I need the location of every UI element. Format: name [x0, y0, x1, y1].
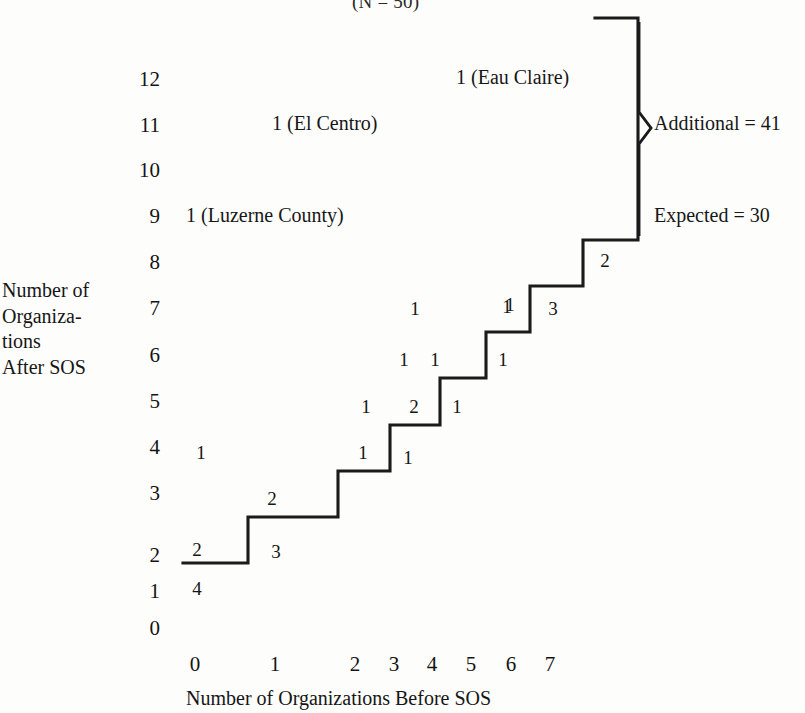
- step-label-above-1: 2: [261, 488, 283, 510]
- x-tick-0: 0: [182, 652, 208, 677]
- step-label-below-0: 4: [186, 578, 208, 600]
- annotation-additional: Additional = 41: [654, 112, 781, 135]
- x-tick-4: 4: [419, 652, 445, 677]
- step-label-above-2: 1: [352, 442, 374, 464]
- y-tick-8: 8: [124, 250, 160, 275]
- step-label-mid-5: 1: [499, 294, 521, 316]
- y-tick-4: 4: [124, 435, 160, 460]
- x-tick-7: 7: [537, 652, 563, 677]
- step-label-below-4: 1: [492, 349, 514, 371]
- y-axis-title-line-1: Number of: [2, 278, 89, 304]
- y-tick-6: 6: [124, 343, 160, 368]
- y-tick-12: 12: [124, 67, 160, 92]
- y-tick-2: 2: [124, 543, 160, 568]
- staircase-step-line: [183, 18, 638, 563]
- annotation-eau-claire: 1 (Eau Claire): [456, 66, 569, 89]
- step-label-above-0: 2: [186, 539, 208, 561]
- annotation-expected: Expected = 30: [654, 204, 770, 227]
- step-label-below-1: 3: [265, 541, 287, 563]
- figure-title: (N = 50): [352, 0, 419, 13]
- step-label-above-3: 1: [355, 396, 377, 418]
- step-label-below-6: 1: [190, 442, 212, 464]
- step-label-above-7: 2: [594, 250, 616, 272]
- annotation-el-centro: 1 (El Centro): [272, 112, 378, 135]
- y-tick-10: 10: [124, 158, 160, 183]
- y-axis-title-line-3: tions: [2, 329, 89, 355]
- y-axis-title-line-4: After SOS: [2, 355, 89, 381]
- y-tick-0: 0: [124, 616, 160, 641]
- x-tick-6: 6: [498, 652, 524, 677]
- y-axis-title: Number of Organiza- tions After SOS: [2, 278, 89, 380]
- step-label-mid-4: 1: [424, 349, 446, 371]
- y-tick-11: 11: [124, 113, 160, 138]
- y-axis-title-line-2: Organiza-: [2, 304, 89, 330]
- y-tick-1: 1: [124, 579, 160, 604]
- x-tick-5: 5: [458, 652, 484, 677]
- annotation-luzerne-county: 1 (Luzerne County): [186, 204, 344, 227]
- y-tick-5: 5: [124, 389, 160, 414]
- step-label-below-3: 1: [446, 396, 468, 418]
- step-label-above-5: 1: [404, 298, 426, 320]
- figure-root: (N = 50) 12 11 10 9 8 7 6 5 4 3 2 1 0 Nu…: [0, 0, 805, 713]
- summary-brace: [639, 22, 651, 236]
- y-tick-3: 3: [124, 481, 160, 506]
- y-tick-7: 7: [124, 296, 160, 321]
- x-axis-title: Number of Organizations Before SOS: [186, 686, 491, 711]
- step-label-above-4: 1: [393, 349, 415, 371]
- y-tick-9: 9: [124, 204, 160, 229]
- x-tick-1: 1: [262, 652, 288, 677]
- x-tick-2: 2: [342, 652, 368, 677]
- x-tick-3: 3: [381, 652, 407, 677]
- step-label-below-2: 1: [397, 447, 419, 469]
- step-label-below-5: 3: [542, 298, 564, 320]
- step-label-mid-3: 2: [403, 396, 425, 418]
